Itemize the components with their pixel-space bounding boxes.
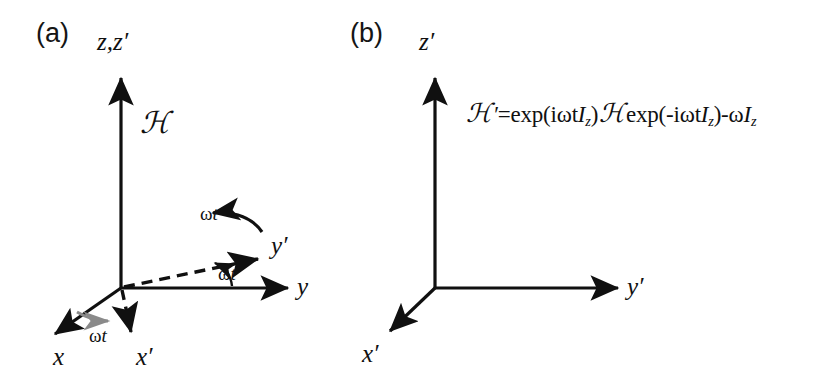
panel-a-angle-xz-label: ωt (89, 325, 107, 347)
panel-a-rotation-arc-arrow (213, 212, 262, 232)
panel-a-z-axis-label: z,z′ (97, 28, 128, 56)
diagram-vector-layer (0, 0, 840, 385)
panel-b-yprime-axis-label: y′ (627, 273, 644, 301)
omega-symbol: ω (200, 203, 213, 224)
panel-a-label: (a) (36, 18, 69, 49)
panel-a-xprime-axis-label: x′ (136, 343, 153, 371)
paren-close-2: )- (714, 102, 729, 127)
panel-a-x-axis-label: x (53, 343, 64, 371)
omega-symbol-1: ω (557, 102, 572, 127)
panel-a-rotation-angle-label: ωt (200, 203, 218, 225)
omega-symbol: ω (89, 325, 102, 346)
time-symbol: t (231, 263, 236, 284)
panel-a-x-axis (55, 288, 121, 334)
omega-symbol-2: ω (680, 102, 695, 127)
script-h-symbol-mid: ℋ (598, 98, 626, 128)
time-symbol: t (213, 203, 218, 224)
panel-b-xprime-axis-label: x′ (362, 340, 379, 368)
figure-canvas: (a) z,z′ y x y′ x′ ℋ ωt ωt ωt (b) z′ y′ … (0, 0, 840, 385)
hamiltonian-symbol: ℋ (140, 105, 170, 140)
omega-symbol: ω (218, 263, 231, 284)
subscript-z-3: z (751, 113, 756, 129)
transformed-hamiltonian-equation: ℋ′=exp(iωtIz)ℋexp(-iωtIz)-ωIz (465, 98, 756, 130)
panel-a-yprime-axis (124, 259, 258, 287)
time-symbol: t (102, 325, 107, 346)
panel-a-yprime-axis-label: y′ (271, 232, 288, 260)
operator-i-3: I (744, 102, 751, 127)
panel-a-angle-yz-label: ωt (218, 263, 236, 285)
panel-b-label: (b) (350, 18, 383, 49)
equals-exp-open: =exp(i (498, 102, 557, 127)
panel-a-y-axis-label: y (297, 273, 308, 301)
exp-open-2: exp(-i (626, 102, 680, 127)
panel-b-zprime-axis-label: z′ (419, 28, 434, 56)
panel-b-xprime-axis (390, 288, 435, 331)
omega-symbol-3: ω (729, 102, 744, 127)
script-h-symbol: ℋ (465, 98, 493, 128)
panel-a-xprime-axis (122, 290, 131, 332)
